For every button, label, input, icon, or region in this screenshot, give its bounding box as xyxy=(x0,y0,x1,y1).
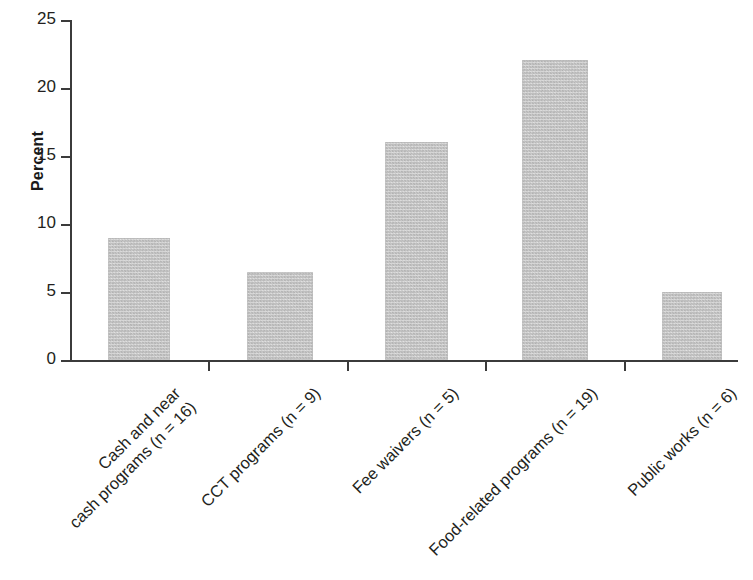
y-tick-label-20: 20 xyxy=(8,78,56,95)
x-tick-4 xyxy=(624,362,626,371)
x-label-line1: CCT programs (n = 9) xyxy=(197,384,323,510)
y-axis-line xyxy=(70,20,72,361)
y-tick-label-5: 5 xyxy=(8,282,56,299)
x-tick-1 xyxy=(208,362,210,371)
y-tick-label-0: 0 xyxy=(8,350,56,367)
y-tick-0 xyxy=(61,360,71,362)
x-tick-2 xyxy=(347,362,349,371)
y-tick-label-10: 10 xyxy=(8,214,56,231)
y-tick-label-15: 15 xyxy=(8,146,56,163)
y-tick-label-25: 25 xyxy=(8,10,56,27)
bar-public-works xyxy=(662,292,722,360)
x-label-line1: Public works (n = 6) xyxy=(624,384,740,500)
x-tick-3 xyxy=(485,362,487,371)
bar-food-related-programs xyxy=(522,60,588,360)
y-tick-10 xyxy=(61,224,71,226)
x-label-line1: Food-related programs (n = 19) xyxy=(425,384,600,559)
bar-fee-waivers xyxy=(385,142,448,360)
y-tick-20 xyxy=(61,88,71,90)
y-tick-15 xyxy=(61,156,71,158)
y-tick-5 xyxy=(61,292,71,294)
x-label-line1: Fee waivers (n = 5) xyxy=(349,384,462,497)
y-tick-25 xyxy=(61,20,71,22)
x-label-cash-and-near-cash-programs: Cash and near cash programs (n = 16) xyxy=(50,383,200,533)
bar-cct-programs xyxy=(247,272,313,360)
bar-cash-and-near-cash-programs xyxy=(108,238,170,360)
bar-chart: Percent 25 20 15 10 5 0 Cash and near ca… xyxy=(0,0,753,580)
x-axis-line xyxy=(70,360,738,362)
